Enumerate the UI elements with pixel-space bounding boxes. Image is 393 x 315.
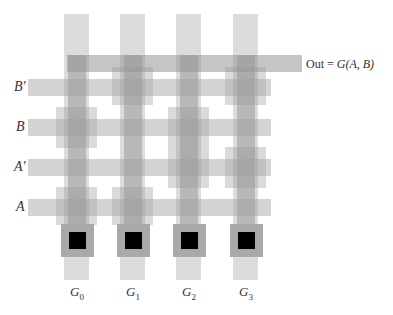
contact-g3 bbox=[238, 232, 255, 249]
column-label-g2: G2 bbox=[182, 284, 196, 302]
row-a bbox=[28, 199, 271, 216]
row-a-prime bbox=[28, 159, 271, 176]
row-b-prime bbox=[28, 79, 271, 96]
output-line bbox=[67, 55, 302, 72]
row-label-b: B bbox=[16, 119, 25, 135]
row-label-b-prime: B′ bbox=[14, 79, 26, 95]
column-label-g1: G1 bbox=[126, 284, 140, 302]
column-label-g0: G0 bbox=[70, 284, 84, 302]
contact-g0 bbox=[69, 232, 86, 249]
contact-g1 bbox=[125, 232, 142, 249]
row-label-a-prime: A′ bbox=[14, 159, 26, 175]
output-label-prefix: Out = bbox=[306, 57, 337, 71]
output-label: Out = G(A, B) bbox=[306, 57, 374, 72]
output-label-function: G(A, B) bbox=[337, 57, 374, 71]
pla-diagram: B′ B A′ A Out = G(A, B) G0 G1 G2 G3 bbox=[0, 0, 393, 315]
row-label-a: A bbox=[16, 199, 25, 215]
row-b bbox=[28, 119, 271, 136]
contact-g2 bbox=[181, 232, 198, 249]
column-label-g3: G3 bbox=[239, 284, 253, 302]
